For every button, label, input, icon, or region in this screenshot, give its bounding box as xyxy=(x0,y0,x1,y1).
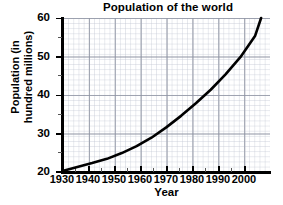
x-tick-1990 xyxy=(218,166,220,172)
x-tick-minor-1975 xyxy=(179,168,180,172)
population-chart: Population of the world Population (in h… xyxy=(0,0,283,205)
y-tick-60 xyxy=(56,18,62,20)
y-tick-label-40: 40 xyxy=(24,89,50,100)
x-tick-1930 xyxy=(62,166,64,172)
y-tick-minor-45 xyxy=(58,75,62,76)
x-tick-1950 xyxy=(114,166,116,172)
y-tick-minor-25 xyxy=(58,152,62,153)
x-tick-1940 xyxy=(88,166,90,172)
plot-area xyxy=(63,18,270,172)
x-tick-minor-1985 xyxy=(205,168,206,172)
grid-fine-horizontal xyxy=(63,18,270,172)
y-tick-label-50: 50 xyxy=(24,51,50,62)
x-tick-minor-1995 xyxy=(231,168,232,172)
y-tick-40 xyxy=(56,95,62,97)
x-tick-minor-1945 xyxy=(101,168,102,172)
x-tick-1980 xyxy=(192,166,194,172)
x-tick-minor-1965 xyxy=(153,168,154,172)
y-tick-50 xyxy=(56,56,62,58)
x-tick-1970 xyxy=(166,166,168,172)
x-tick-label-2000: 2000 xyxy=(227,173,261,185)
y-tick-label-60: 60 xyxy=(24,12,50,23)
y-axis-title-line-1: Population (in xyxy=(9,40,22,113)
x-tick-2000 xyxy=(244,166,246,172)
x-axis-title: Year xyxy=(63,186,270,198)
chart-title: Population of the world xyxy=(63,1,273,13)
y-tick-label-30: 30 xyxy=(24,128,50,139)
y-axis-title-line-2: hundred millions) xyxy=(22,31,35,123)
grid-major xyxy=(63,18,270,172)
x-tick-minor-1935 xyxy=(75,168,76,172)
y-tick-30 xyxy=(56,133,62,135)
x-tick-minor-1955 xyxy=(127,168,128,172)
y-tick-minor-35 xyxy=(58,114,62,115)
y-tick-minor-55 xyxy=(58,37,62,38)
x-tick-1960 xyxy=(140,166,142,172)
